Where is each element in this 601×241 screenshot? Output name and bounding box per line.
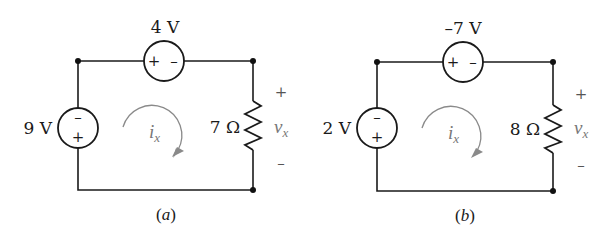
minus-sign: – <box>74 108 82 126</box>
vx-plus-a: + <box>275 83 288 101</box>
caption-a: (a) <box>156 205 176 224</box>
node-top-right-a <box>250 58 256 64</box>
plus-sign: + <box>72 128 85 146</box>
resistor-label-b: 8 Ω <box>510 119 540 139</box>
minus-sign: – <box>469 53 477 71</box>
wire-left-lower-a <box>78 148 253 190</box>
circuit-figure: + – 4 V – + 9 V 7 Ω + – vx ix ( <box>0 0 601 241</box>
vx-label-a: vx <box>274 116 288 140</box>
voltage-source-top-a: + – <box>144 41 184 81</box>
node-bottom-right-a <box>250 187 256 193</box>
plus-sign: + <box>447 53 460 71</box>
top-source-label-a: 4 V <box>151 17 180 37</box>
wire-left-lower-b <box>377 148 553 191</box>
circuit-b: + – –7 V – + 2 V 8 Ω + – vx ix (b) <box>323 18 589 225</box>
voltage-source-top-b: + – <box>443 42 483 82</box>
voltage-source-left-b: – + <box>357 108 397 148</box>
caption-b: (b) <box>455 206 475 225</box>
ix-label-a: ix <box>149 121 160 145</box>
node-top-right-b <box>550 59 556 65</box>
resistor-zigzag-a <box>245 101 261 150</box>
plus-sign: + <box>371 128 384 146</box>
vx-plus-b: + <box>575 85 588 103</box>
node-top-left-b <box>374 59 380 65</box>
circuit-a: + – 4 V – + 9 V 7 Ω + – vx ix ( <box>24 17 289 224</box>
voltage-source-left-a: – + <box>58 108 98 148</box>
minus-sign: – <box>170 52 178 70</box>
vx-minus-b: – <box>577 156 585 174</box>
vx-label-b: vx <box>574 117 588 141</box>
node-bottom-right-b <box>550 188 556 194</box>
resistor-zigzag-b <box>545 105 561 153</box>
resistor-label-a: 7 Ω <box>210 117 240 137</box>
left-source-label-a: 9 V <box>24 118 53 138</box>
vx-minus-a: – <box>277 154 285 172</box>
left-source-label-b: 2 V <box>323 118 352 138</box>
minus-sign: – <box>373 108 381 126</box>
plus-sign: + <box>148 52 161 70</box>
node-top-left-a <box>75 58 81 64</box>
ix-label-b: ix <box>448 122 459 146</box>
top-source-label-b: –7 V <box>445 18 483 38</box>
